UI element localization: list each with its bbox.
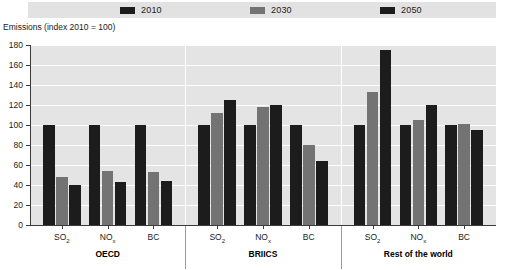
y-axis-tick-label: 60 xyxy=(14,160,23,170)
x-axis-category-label: SO2 xyxy=(54,232,70,244)
bar-briics-so2-2030 xyxy=(211,113,223,225)
x-axis-tick xyxy=(464,226,465,229)
y-axis-tick-label: 140 xyxy=(9,80,23,90)
y-axis-tick xyxy=(26,105,30,106)
x-axis-category-label: NOx xyxy=(410,232,426,244)
chart-legend: 2010 2030 2050 xyxy=(28,2,496,18)
x-axis-tick xyxy=(263,226,264,229)
y-axis-tick xyxy=(26,145,30,146)
legend-item-2050: 2050 xyxy=(380,6,422,15)
y-axis-tick xyxy=(26,165,30,166)
gridline xyxy=(30,65,496,66)
bar-briics-so2-2010 xyxy=(198,125,210,225)
legend-swatch-2010 xyxy=(120,7,135,14)
bar-briics-so2-2050 xyxy=(224,100,236,225)
x-axis-group-label: Rest of the world xyxy=(384,249,453,259)
bar-oecd-so2-2030 xyxy=(56,177,68,225)
y-axis-tick xyxy=(26,45,30,46)
x-axis-category-label: BC xyxy=(148,232,160,242)
bar-briics-bc-2010 xyxy=(290,125,302,225)
bar-oecd-nox-2030 xyxy=(102,171,114,225)
bar-rest-of-the-world-so2-2030 xyxy=(367,92,379,225)
y-axis-tick xyxy=(26,65,30,66)
x-axis-category-label: NOx xyxy=(100,232,116,244)
gridline xyxy=(30,45,496,46)
x-axis-group-label: OECD xyxy=(95,249,120,259)
group-separator xyxy=(341,45,342,225)
x-axis-tick xyxy=(217,226,218,229)
y-axis-tick-label: 0 xyxy=(18,220,23,230)
y-axis-tick-label: 180 xyxy=(9,40,23,50)
y-axis-tick-label: 80 xyxy=(14,140,23,150)
bar-oecd-bc-2030 xyxy=(148,172,160,225)
y-axis-title: Emissions (index 2010 = 100) xyxy=(3,22,115,32)
y-axis-tick xyxy=(26,205,30,206)
bar-briics-nox-2010 xyxy=(244,125,256,225)
bar-oecd-nox-2050 xyxy=(115,182,127,225)
x-axis-category-label: SO2 xyxy=(365,232,381,244)
bar-rest-of-the-world-bc-2010 xyxy=(445,125,457,225)
gridline xyxy=(30,85,496,86)
bar-briics-bc-2030 xyxy=(303,145,315,225)
bar-briics-nox-2030 xyxy=(257,107,269,225)
bar-rest-of-the-world-nox-2050 xyxy=(426,105,438,225)
x-axis-category-label: SO2 xyxy=(209,232,225,244)
bar-oecd-nox-2010 xyxy=(89,125,101,225)
y-axis-line xyxy=(30,45,31,226)
bar-oecd-so2-2010 xyxy=(43,125,55,225)
x-axis-group-label: BRIICS xyxy=(249,249,278,259)
x-axis-tick xyxy=(62,226,63,229)
bar-oecd-so2-2050 xyxy=(69,185,81,225)
y-axis-tick-label: 100 xyxy=(9,120,23,130)
bar-oecd-bc-2010 xyxy=(135,125,147,225)
legend-label-2010: 2010 xyxy=(141,6,162,15)
bar-rest-of-the-world-so2-2010 xyxy=(354,125,366,225)
bar-rest-of-the-world-so2-2050 xyxy=(380,50,392,225)
legend-label-2050: 2050 xyxy=(401,6,422,15)
x-axis-tick xyxy=(309,226,310,229)
bar-oecd-bc-2050 xyxy=(161,181,173,225)
legend-item-2010: 2010 xyxy=(120,6,162,15)
y-axis-tick-label: 20 xyxy=(14,200,23,210)
group-separator-below-axis xyxy=(185,226,186,269)
y-axis-tick xyxy=(26,225,30,226)
y-axis-tick xyxy=(26,85,30,86)
y-axis-tick xyxy=(26,125,30,126)
legend-item-2030: 2030 xyxy=(250,6,292,15)
y-axis-tick xyxy=(26,185,30,186)
legend-label-2030: 2030 xyxy=(271,6,292,15)
group-separator xyxy=(185,45,186,225)
plot-area xyxy=(30,45,496,225)
y-axis-tick-label: 160 xyxy=(9,60,23,70)
x-axis-tick xyxy=(418,226,419,229)
bar-rest-of-the-world-nox-2030 xyxy=(413,120,425,225)
y-axis-tick-label: 120 xyxy=(9,100,23,110)
chart-root: 2010 2030 2050 Emissions (index 2010 = 1… xyxy=(0,0,512,270)
x-axis-tick xyxy=(153,226,154,229)
x-axis-category-label: NOx xyxy=(255,232,271,244)
x-axis-category-label: BC xyxy=(303,232,315,242)
bar-rest-of-the-world-bc-2050 xyxy=(471,130,483,225)
bar-briics-nox-2050 xyxy=(270,105,282,225)
x-axis-tick xyxy=(373,226,374,229)
group-separator-below-axis xyxy=(341,226,342,269)
x-axis-tick xyxy=(108,226,109,229)
legend-swatch-2050 xyxy=(380,7,395,14)
y-axis-tick-label: 40 xyxy=(14,180,23,190)
bar-briics-bc-2050 xyxy=(316,161,328,225)
bar-rest-of-the-world-nox-2010 xyxy=(400,125,412,225)
bar-rest-of-the-world-bc-2030 xyxy=(458,124,470,225)
legend-swatch-2030 xyxy=(250,7,265,14)
x-axis-category-label: BC xyxy=(458,232,470,242)
